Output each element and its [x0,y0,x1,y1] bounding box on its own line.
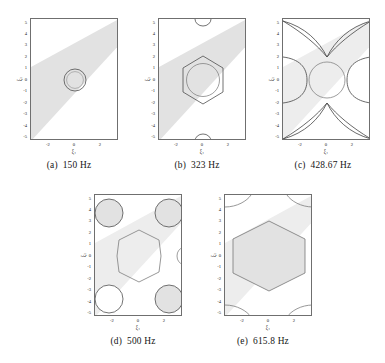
ytick-d-1: 4 [78,207,91,212]
ytick-a-9: -4 [14,123,27,128]
xaxis-label-d: ξ₁ [136,324,140,330]
contour-arc-tl-e [225,195,251,207]
xtick-d-0: -2 [110,318,114,323]
ytick-e-4: 1 [208,241,221,246]
ytick-d-10: -5 [78,310,91,315]
ytick-c-4: 1 [266,65,279,70]
plot-area-c [282,18,370,140]
ytick-c-8: -3 [266,111,279,116]
shaded-band-a [31,19,118,140]
ytick-d-8: -3 [78,287,91,292]
xtick-c-0: -2 [298,142,302,147]
xaxis-label-e: ξ₁ [266,324,270,330]
ytick-a-6: -1 [14,88,27,93]
ytick-a-2: 3 [14,42,27,47]
yaxis-label-d: ξ₂ [80,253,86,257]
ytick-d-4: 1 [78,241,91,246]
ytick-b-0: 5 [142,20,155,25]
caption-c: (c)428.67 Hz [266,160,380,170]
contour-corner-circle-tr-d [155,199,182,227]
caption-text-a: 150 Hz [63,160,92,170]
ytick-b-1: 4 [142,31,155,36]
plot-area-b [158,18,246,140]
ytick-a-10: -5 [14,134,27,139]
plot-svg-b [159,19,246,140]
caption-label-b: (b) [174,160,186,170]
ytick-e-3: 2 [208,230,221,235]
contour-bottom-arc-b [195,134,211,140]
panel-a: 5 4 3 2 1 0 -1 -2 -3 -4 -5 ξ₂ -2 0 2 ξ₁ … [14,14,124,164]
xtick-a-2: 2 [99,142,101,147]
xtick-a-1: 0 [73,142,75,147]
caption-b: (b)323 Hz [142,160,252,170]
ytick-e-10: -5 [208,310,221,315]
ytick-b-8: -3 [142,111,155,116]
yaxis-label-e: ξ₂ [210,253,216,257]
contour-arc-br-e [287,305,312,316]
yaxis-label-b: ξ₂ [144,77,150,81]
ytick-b-6: -1 [142,88,155,93]
ytick-a-3: 2 [14,54,27,59]
yaxis-label-c: ξ₂ [268,77,274,81]
ytick-c-3: 2 [266,54,279,59]
ytick-a-0: 5 [14,20,27,25]
ytick-b-2: 3 [142,42,155,47]
xtick-b-2: 2 [227,142,229,147]
ytick-d-2: 3 [78,218,91,223]
ytick-c-2: 3 [266,42,279,47]
xtick-e-1: 0 [267,318,269,323]
caption-a: (a)150 Hz [14,160,124,170]
xtick-d-1: 0 [137,318,139,323]
plot-svg-d [95,195,182,316]
caption-text-b: 323 Hz [191,160,220,170]
ytick-c-0: 5 [266,20,279,25]
xtick-c-2: 2 [351,142,353,147]
ytick-c-9: -4 [266,123,279,128]
ytick-b-3: 2 [142,54,155,59]
ytick-c-1: 4 [266,31,279,36]
caption-label-d: (d) [110,336,122,346]
panel-b: 5 4 3 2 1 0 -1 -2 -3 -4 -5 ξ₂ -2 0 2 ξ₁ … [142,14,252,164]
contour-right-edge-arc-d [177,248,182,264]
caption-d: (d)500 Hz [78,336,188,346]
xtick-c-1: 0 [325,142,327,147]
ytick-d-6: -1 [78,264,91,269]
yaxis-label-a: ξ₂ [16,77,22,81]
panel-e: 5 4 3 2 1 0 -1 -2 -3 -4 -5 ξ₂ -2 0 2 ξ₁ … [208,190,318,340]
shaded-band-b [159,19,246,140]
ytick-e-1: 4 [208,207,221,212]
ytick-e-8: -3 [208,287,221,292]
ytick-e-0: 5 [208,196,221,201]
ytick-a-7: -2 [14,100,27,105]
ytick-d-0: 5 [78,196,91,201]
figure-container: 5 4 3 2 1 0 -1 -2 -3 -4 -5 ξ₂ -2 0 2 ξ₁ … [0,0,385,363]
plot-area-d [94,194,182,316]
panel-d: 5 4 3 2 1 0 -1 -2 -3 -4 -5 ξ₂ -2 0 2 ξ₁ … [78,190,188,340]
caption-label-c: (c) [295,160,306,170]
ytick-e-6: -1 [208,264,221,269]
xaxis-label-c: ξ₁ [324,148,328,154]
xtick-d-2: 2 [163,318,165,323]
ytick-a-4: 1 [14,65,27,70]
ytick-d-9: -4 [78,299,91,304]
ytick-c-6: -1 [266,88,279,93]
ytick-a-8: -3 [14,111,27,116]
xaxis-label-a: ξ₁ [72,148,76,154]
ytick-a-1: 4 [14,31,27,36]
contour-corner-circle-bl-d [95,285,123,313]
ytick-b-9: -4 [142,123,155,128]
ytick-b-10: -5 [142,134,155,139]
contour-corner-circle-tl-d [95,199,123,227]
caption-label-e: (e) [237,336,248,346]
caption-e: (e)615.8 Hz [208,336,318,346]
xtick-b-0: -2 [174,142,178,147]
ytick-c-10: -5 [266,134,279,139]
xtick-b-1: 0 [201,142,203,147]
plot-svg-c [283,19,370,140]
plot-area-a [30,18,118,140]
contour-top-arc-b [195,19,211,26]
xtick-e-0: -2 [240,318,244,323]
caption-text-e: 615.8 Hz [253,336,289,346]
ytick-d-7: -2 [78,276,91,281]
ytick-e-9: -4 [208,299,221,304]
